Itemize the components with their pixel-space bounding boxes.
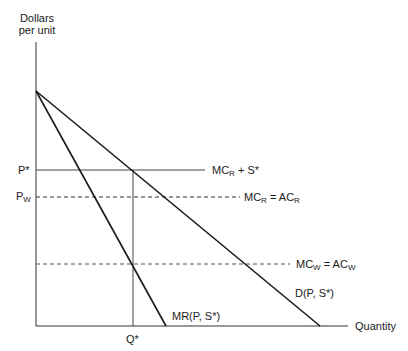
x-axis-label: Quantity — [355, 320, 396, 332]
mc-w-ac-w-mid: = AC — [321, 258, 348, 270]
mc-w-ac-w-pre: MC — [296, 258, 313, 270]
mc-r-ac-r-mid: = AC — [267, 191, 294, 203]
mc-w-ac-w-sub1: W — [313, 263, 321, 272]
mc-r-ac-r-sub2: R — [294, 196, 300, 205]
y-axis-label-line2: per unit — [14, 24, 60, 36]
mc-w-ac-w-sub2: W — [348, 263, 356, 272]
mc-r-plus-s-pre: MC — [212, 164, 229, 176]
p-star-label: P* — [18, 164, 30, 176]
p-w-label: PW — [16, 190, 31, 202]
mc-r-ac-r-pre: MC — [244, 191, 261, 203]
demand-label: D(P, S*) — [295, 287, 334, 299]
diagram-canvas — [0, 0, 408, 351]
y-axis-label-line1: Dollars — [14, 12, 60, 24]
marginal-revenue-curve — [36, 91, 166, 326]
demand-curve — [36, 91, 320, 326]
q-star-label: Q* — [126, 333, 139, 345]
p-w-subscript: W — [23, 195, 31, 204]
mc-r-plus-s-post: + S* — [235, 164, 259, 176]
mc-r-ac-r-label: MCR = ACR — [244, 191, 300, 203]
mc-r-plus-s-label: MCR + S* — [212, 164, 259, 176]
y-axis-label: Dollars per unit — [14, 12, 60, 36]
mc-w-ac-w-label: MCW = ACW — [296, 258, 355, 270]
marginal-revenue-label: MR(P, S*) — [172, 310, 220, 322]
